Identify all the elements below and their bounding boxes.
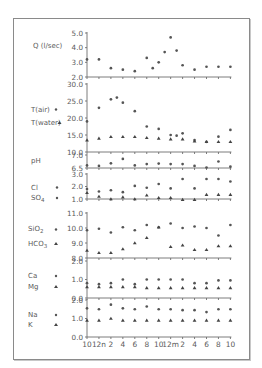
data-point-circle bbox=[193, 68, 196, 71]
data-point-circle bbox=[229, 180, 232, 183]
data-point-triangle bbox=[217, 286, 221, 289]
y-tick-label: 20.0 bbox=[67, 114, 83, 123]
data-point-circle bbox=[229, 279, 232, 282]
label-hco3: HCO3 bbox=[28, 240, 48, 249]
data-point-circle bbox=[98, 283, 101, 286]
data-point-triangle bbox=[121, 285, 125, 288]
data-point-triangle bbox=[145, 286, 149, 289]
data-point-circle bbox=[110, 98, 113, 101]
data-point-triangle bbox=[157, 137, 161, 140]
x-tick-label: 6 bbox=[204, 340, 209, 349]
data-point-triangle bbox=[109, 251, 113, 254]
x-tick-label: 2 bbox=[109, 340, 114, 349]
data-point-triangle bbox=[169, 319, 173, 322]
data-point-triangle bbox=[109, 135, 113, 138]
data-point-circle bbox=[157, 61, 160, 64]
data-point-circle bbox=[175, 134, 178, 137]
data-point-circle bbox=[193, 309, 196, 312]
data-point-circle bbox=[157, 308, 160, 311]
data-point-circle bbox=[133, 164, 136, 167]
data-point-triangle bbox=[97, 251, 101, 254]
x-tick-label: 6 bbox=[132, 340, 137, 349]
data-point-triangle bbox=[205, 248, 209, 251]
data-point-circle bbox=[217, 234, 220, 237]
data-point-circle bbox=[145, 125, 148, 128]
y-tick-label: 1.0 bbox=[72, 275, 84, 284]
data-point-triangle bbox=[121, 247, 125, 250]
x-tick-label: 8 bbox=[216, 340, 221, 349]
data-point-circle bbox=[217, 135, 220, 138]
data-point-circle bbox=[122, 226, 125, 229]
panel-t: 30.025.020.015.010.0 bbox=[67, 80, 232, 157]
series-t-air- bbox=[86, 96, 232, 143]
circle-marker-icon bbox=[55, 228, 57, 230]
series-ca bbox=[86, 278, 232, 285]
data-point-circle bbox=[169, 163, 172, 166]
data-point-circle bbox=[86, 120, 89, 123]
x-tick-label: 10 bbox=[82, 340, 92, 349]
data-point-circle bbox=[110, 303, 113, 306]
triangle-marker-icon bbox=[54, 285, 58, 288]
data-point-triangle bbox=[193, 286, 197, 289]
data-point-circle bbox=[181, 227, 184, 230]
plot-area: 5.04.03.02.030.025.020.015.010.07.06.53.… bbox=[67, 29, 232, 342]
data-point-circle bbox=[229, 65, 232, 68]
data-point-circle bbox=[116, 96, 119, 99]
data-point-circle bbox=[217, 160, 220, 163]
label-t-air: T(air) bbox=[30, 106, 50, 114]
data-point-triangle bbox=[193, 319, 197, 322]
data-point-triangle bbox=[133, 241, 137, 244]
label-so4: SO4 bbox=[31, 194, 45, 203]
data-point-triangle bbox=[217, 244, 221, 247]
circle-marker-icon bbox=[55, 275, 57, 277]
y-tick-label: 2.0 bbox=[72, 296, 84, 305]
data-point-triangle bbox=[145, 193, 149, 196]
panel-nak: 2.01.00.0 bbox=[72, 296, 233, 342]
data-point-circle bbox=[133, 185, 136, 188]
data-point-circle bbox=[133, 308, 136, 311]
data-point-triangle bbox=[121, 319, 125, 322]
data-point-triangle bbox=[157, 319, 161, 322]
data-point-circle bbox=[145, 57, 148, 60]
data-point-circle bbox=[98, 190, 101, 193]
data-point-circle bbox=[122, 191, 125, 194]
data-point-circle bbox=[169, 187, 172, 190]
y-tick-label: 10.0 bbox=[67, 224, 83, 233]
stacked-water-chemistry-chart: Q (l/sec) T(air) T(water) pH Cl SO4 SiO2… bbox=[0, 0, 262, 368]
y-tick-label: 7.0 bbox=[72, 151, 84, 160]
data-point-circle bbox=[110, 162, 113, 165]
data-point-triangle bbox=[97, 195, 101, 198]
data-point-circle bbox=[229, 129, 232, 132]
data-point-triangle bbox=[181, 137, 185, 140]
series-k bbox=[85, 317, 232, 322]
circle-marker-icon bbox=[56, 186, 58, 188]
triangle-marker-icon bbox=[54, 323, 58, 326]
data-point-circle bbox=[110, 282, 113, 285]
data-point-circle bbox=[98, 106, 101, 109]
label-sio2: SiO2 bbox=[28, 225, 43, 234]
data-point-triangle bbox=[169, 286, 173, 289]
data-point-triangle bbox=[133, 135, 137, 138]
data-point-circle bbox=[205, 65, 208, 68]
data-point-triangle bbox=[85, 249, 89, 252]
data-point-triangle bbox=[229, 244, 233, 247]
data-point-triangle bbox=[157, 196, 161, 199]
data-point-triangle bbox=[97, 285, 101, 288]
data-point-circle bbox=[157, 162, 160, 165]
data-point-triangle bbox=[217, 193, 221, 196]
data-point-circle bbox=[98, 58, 101, 61]
data-point-circle bbox=[181, 64, 184, 67]
data-point-triangle bbox=[193, 248, 197, 251]
data-point-triangle bbox=[145, 319, 149, 322]
data-point-triangle bbox=[229, 286, 233, 289]
data-point-triangle bbox=[205, 140, 209, 143]
series-t-water- bbox=[85, 135, 232, 143]
data-point-circle bbox=[86, 307, 89, 310]
data-point-circle bbox=[181, 278, 184, 281]
y-tick-label: 11.0 bbox=[67, 209, 83, 218]
data-point-triangle bbox=[133, 285, 137, 288]
data-point-circle bbox=[157, 128, 160, 131]
data-point-circle bbox=[133, 110, 136, 113]
panel-ph: 7.06.5 bbox=[72, 151, 232, 173]
data-point-circle bbox=[181, 163, 184, 166]
